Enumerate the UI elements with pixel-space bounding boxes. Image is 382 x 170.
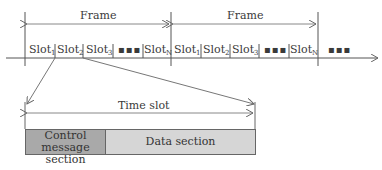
slot-label: Slot3: [232, 44, 259, 56]
ellipsis-icon: ▪▪▪: [118, 44, 141, 55]
frame-label: Frame: [80, 10, 116, 22]
ellipsis-icon: ▪▪▪: [264, 44, 287, 55]
control-message-section: Control message section: [25, 129, 106, 155]
slot-label: Slot1: [174, 44, 201, 56]
frame-label: Frame: [227, 10, 263, 22]
slot-label: Slot3: [86, 44, 113, 56]
control-section-line1: Control message: [26, 130, 105, 154]
data-section-label: Data section: [106, 136, 255, 148]
slot-label: SlotN: [290, 44, 318, 56]
slot-label: SlotN: [144, 44, 172, 56]
data-section: Data section: [105, 129, 256, 155]
ellipsis-icon: ▪▪▪: [328, 44, 351, 55]
slot-label: Slot2: [57, 44, 84, 56]
zoom-projection-line: [27, 58, 55, 104]
time-slot-label: Time slot: [118, 100, 170, 112]
slot-label: Slot2: [203, 44, 230, 56]
control-section-line2: section: [26, 154, 105, 166]
slot-label: Slot1: [29, 44, 56, 56]
zoom-projection-line: [83, 58, 254, 104]
